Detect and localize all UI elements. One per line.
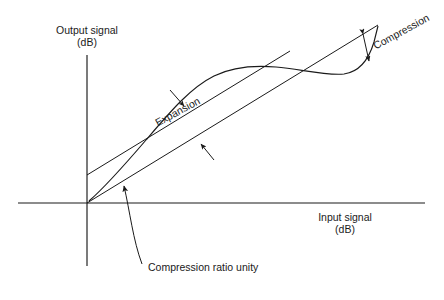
y-axis-label-line-1: Output signal — [56, 24, 118, 36]
y-axis-label: Output signal(dB) — [34, 24, 140, 49]
x-axis-label: Input signal(dB) — [292, 211, 398, 236]
compression-gap-arrow — [363, 34, 369, 61]
compression-ratio-unity-line — [87, 25, 378, 203]
figure-diagram: Output signal(dB) Input signal(dB) Expan… — [0, 0, 444, 300]
y-axis-label-line-2: (dB) — [77, 36, 97, 48]
expansion-offset-line — [87, 51, 290, 175]
compression-ratio-unity-leader — [124, 186, 142, 264]
x-axis-label-line-1: Input signal — [318, 211, 372, 223]
x-axis-label-line-2: (dB) — [335, 223, 355, 235]
expansion-gap-arrow-lower — [201, 144, 214, 160]
compression-ratio-unity-annotation-label: Compression ratio unity — [148, 261, 258, 273]
